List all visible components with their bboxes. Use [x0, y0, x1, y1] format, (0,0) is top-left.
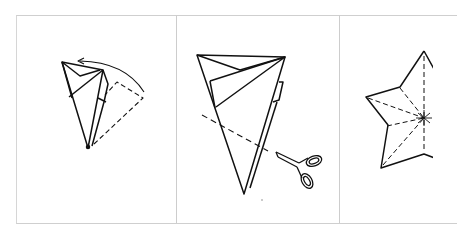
scissors-icon: [276, 152, 323, 190]
speck: [261, 199, 263, 201]
panel-3-star: [366, 51, 433, 168]
panel-1-fold: [62, 58, 144, 149]
panel-2-cut: [197, 55, 285, 194]
crease-center-mark: [416, 110, 432, 126]
